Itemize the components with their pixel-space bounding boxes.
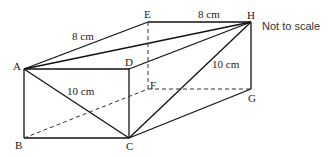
measurement-AE: 8 cm — [72, 30, 94, 42]
measurement-AC: 10 cm — [67, 85, 95, 97]
measurement-CH: 10 cm — [212, 58, 240, 70]
cuboid-diagram: A B C D E F G H 8 cm 8 cm 10 cm 10 cm No… — [0, 0, 328, 157]
edge-CG — [129, 89, 251, 138]
vertex-label-E: E — [144, 8, 151, 20]
vertex-label-H: H — [247, 9, 255, 21]
vertex-label-A: A — [13, 60, 21, 72]
diagonal-AC — [24, 69, 129, 138]
not-to-scale-note: Not to scale — [262, 20, 320, 32]
vertex-label-G: G — [248, 92, 256, 104]
measurement-EH: 8 cm — [198, 8, 220, 20]
diagonal-CH — [129, 22, 251, 138]
vertex-label-B: B — [15, 139, 22, 151]
vertex-label-D: D — [125, 56, 133, 68]
vertex-label-C: C — [126, 140, 133, 152]
vertex-label-F: F — [150, 79, 156, 91]
